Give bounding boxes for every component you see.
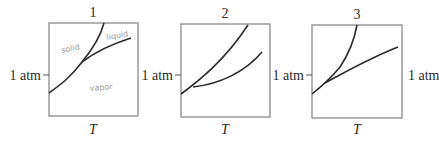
panel-3-steep-curve (312, 25, 357, 94)
panel-1: 1 1 atm solid liquid vapor T (10, 5, 139, 137)
panel-2-frame (181, 24, 270, 117)
panel-2-x-axis-label: T (221, 122, 230, 137)
phase-diagram-figure: 1 1 atm solid liquid vapor T 2 1 atm T 3 (0, 0, 439, 143)
region-label-vapor: vapor (89, 82, 113, 93)
region-label-solid: solid (61, 42, 81, 55)
panel-3-frame (312, 25, 402, 118)
panel-3-x-axis-label: T (353, 122, 362, 137)
panel-3-pressure-label: 1 atm (273, 68, 305, 83)
panel-2: 2 1 atm T (142, 6, 271, 137)
panel-3-title: 3 (354, 7, 361, 22)
panel-2-upper-curve (181, 25, 248, 94)
panel-2-title: 2 (222, 6, 229, 21)
panel-3: 3 1 atm T 1 atm (273, 7, 439, 137)
panel-2-pressure-label: 1 atm (142, 68, 174, 83)
panel-1-x-axis-label: T (89, 122, 98, 137)
panel-1-title: 1 (90, 5, 97, 20)
panel-1-pressure-label: 1 atm (10, 68, 42, 83)
panel-2-lower-curve (193, 52, 262, 87)
panel-3-shallow-curve (325, 47, 398, 83)
right-pressure-label: 1 atm (408, 68, 439, 83)
